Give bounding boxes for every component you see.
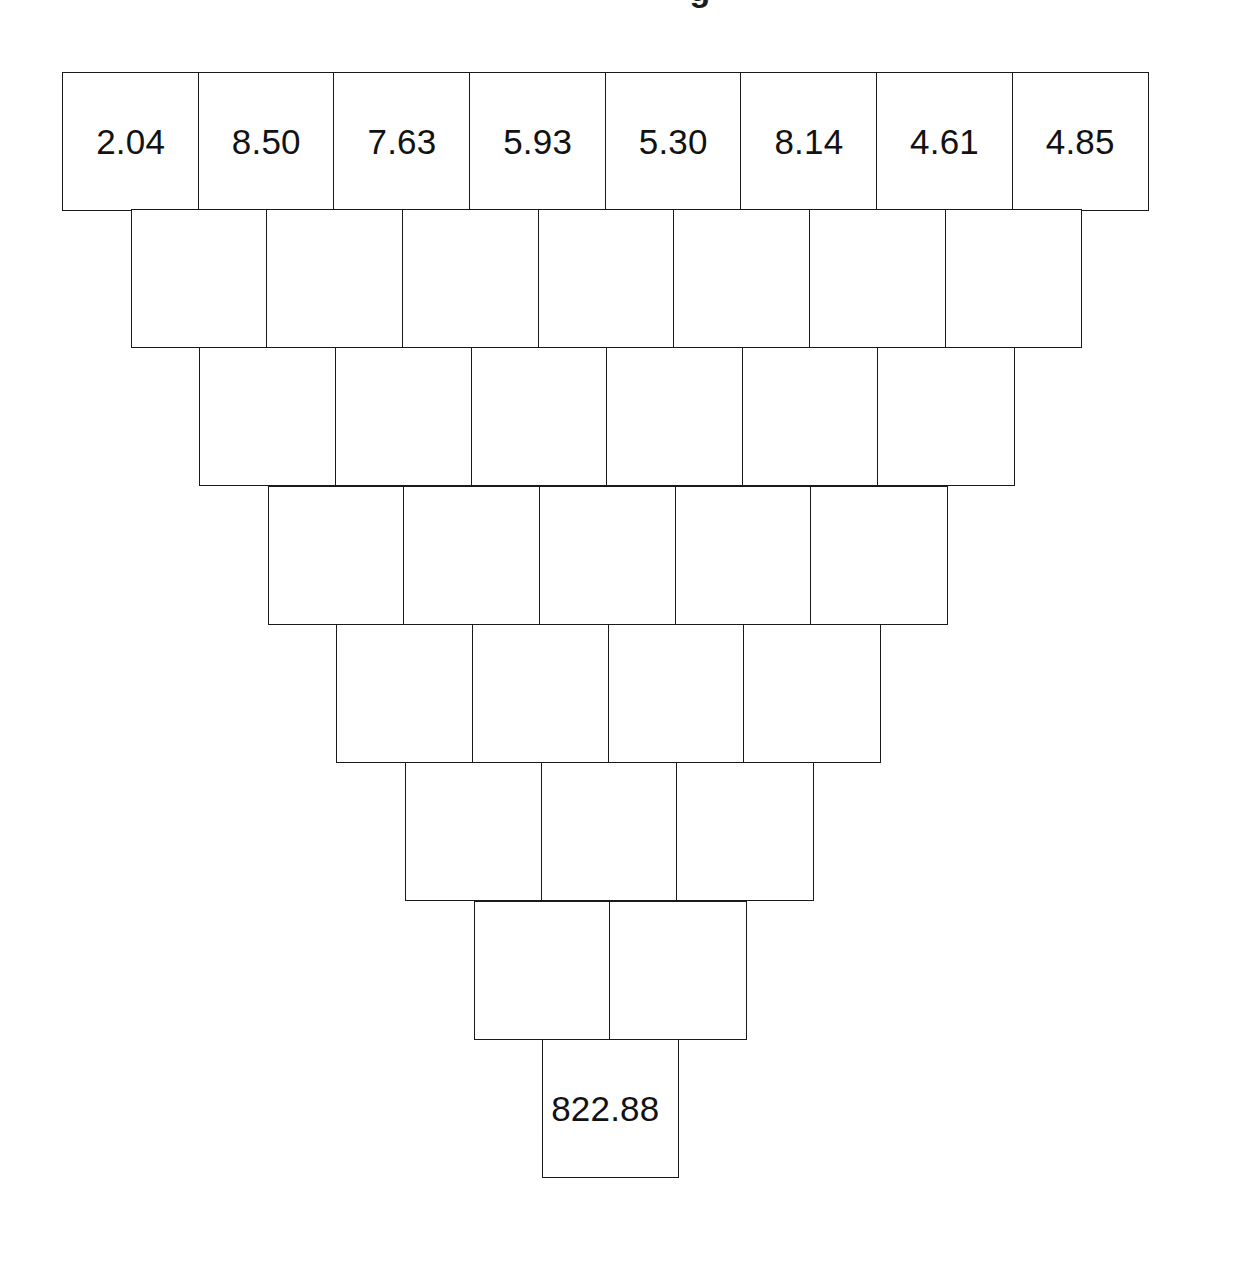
pyramid-cell-r1c3[interactable]: 7.63 [333,72,470,211]
pyramid-row-2 [131,209,1082,348]
pyramid-cell-r4c5[interactable] [810,486,947,625]
pyramid-cell-r7c1[interactable] [474,901,611,1040]
pyramid-cell-r1c2[interactable]: 8.50 [198,72,335,211]
pyramid-cell-r2c6[interactable] [809,209,946,348]
pyramid-cell-r3c3[interactable] [471,347,608,486]
pyramid-cell-r1c8[interactable]: 4.85 [1012,72,1149,211]
pyramid-cell-r3c6[interactable] [877,347,1014,486]
pyramid-cell-r4c3[interactable] [539,486,676,625]
pyramid-cell-r3c2[interactable] [335,347,472,486]
pyramid-row-7 [474,901,747,1040]
pyramid-row-8: 822.88 [542,1039,679,1178]
pyramid-row-6 [405,762,814,901]
pyramid-cell-r1c4[interactable]: 5.93 [469,72,606,211]
pyramid-cell-r6c1[interactable] [405,762,542,901]
pyramid-diagram: g 2.04 8.50 7.63 5.93 5.30 8.14 4.61 4.8… [0,0,1233,1263]
pyramid-cell-r5c1[interactable] [336,624,473,763]
pyramid-cell-r3c1[interactable] [199,347,336,486]
pyramid-cell-r2c1[interactable] [131,209,268,348]
pyramid-cell-r5c3[interactable] [608,624,745,763]
pyramid-cell-r4c1[interactable] [268,486,405,625]
pyramid-row-5 [336,624,880,763]
pyramid-cell-r3c4[interactable] [606,347,743,486]
pyramid-cell-r2c4[interactable] [538,209,675,348]
pyramid-cell-r7c2[interactable] [609,901,746,1040]
pyramid-cell-r3c5[interactable] [742,347,879,486]
pyramid-cell-r2c7[interactable] [945,209,1082,348]
pyramid-cell-r2c3[interactable] [402,209,539,348]
pyramid-cell-r4c2[interactable] [403,486,540,625]
pyramid-cell-r4c4[interactable] [675,486,812,625]
pyramid-cell-r5c2[interactable] [472,624,609,763]
pyramid-cell-r1c1[interactable]: 2.04 [62,72,199,211]
pyramid-row-3 [199,347,1015,486]
pyramid-cell-r1c7[interactable]: 4.61 [876,72,1013,211]
pyramid-row-4 [268,486,948,625]
clipped-title-text: g [640,0,760,10]
pyramid-cell-r1c6[interactable]: 8.14 [740,72,877,211]
pyramid-cell-r6c3[interactable] [676,762,813,901]
pyramid-cell-r1c5[interactable]: 5.30 [605,72,742,211]
pyramid-result-cell[interactable]: 822.88 [542,1039,679,1178]
pyramid-cell-r2c5[interactable] [673,209,810,348]
pyramid-cell-r6c2[interactable] [541,762,678,901]
pyramid-cell-r2c2[interactable] [266,209,403,348]
pyramid-cell-r5c4[interactable] [743,624,880,763]
pyramid-row-1: 2.04 8.50 7.63 5.93 5.30 8.14 4.61 4.85 [62,72,1149,211]
